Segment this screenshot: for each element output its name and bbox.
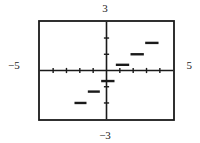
plot-canvas <box>38 20 175 121</box>
y-min-label: −3 <box>5 130 200 141</box>
x-max-label: 5 <box>187 60 193 71</box>
plot-viewport <box>38 20 175 121</box>
x-min-label: −5 <box>8 60 20 71</box>
y-max-label: 3 <box>5 3 200 14</box>
graph-figure: 3 −3 −5 5 <box>0 0 200 143</box>
